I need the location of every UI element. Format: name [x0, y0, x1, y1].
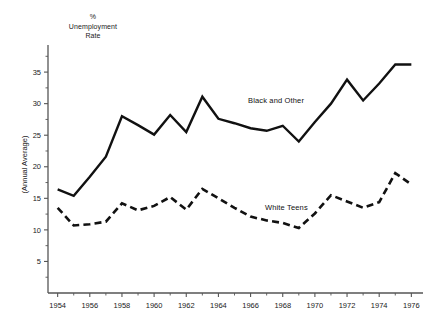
x-tick-label: 1970 [307, 301, 324, 310]
x-tick-label: 1976 [403, 301, 420, 310]
x-tick-label: 1966 [242, 301, 259, 310]
chart-plot-area: 5101520253035195419561958196019621964196… [0, 0, 431, 331]
x-tick-label: 1954 [49, 301, 66, 310]
x-tick-label: 1972 [339, 301, 356, 310]
x-tick-label: 1960 [146, 301, 163, 310]
y-tick-label: 30 [33, 99, 41, 108]
x-tick-label: 1956 [81, 301, 98, 310]
y-tick-label: 25 [33, 131, 41, 140]
x-tick-label: 1962 [178, 301, 195, 310]
y-tick-label: 5 [37, 257, 41, 266]
y-tick-label: 10 [33, 226, 41, 235]
x-tick-label: 1968 [274, 301, 291, 310]
y-tick-label: 15 [33, 194, 41, 203]
unemployment-rate-line-chart: % Unemployment Rate (Annual Average) Bla… [0, 0, 431, 331]
y-tick-label: 20 [33, 162, 41, 171]
y-tick-label: 35 [33, 68, 41, 77]
x-tick-label: 1974 [371, 301, 388, 310]
series-line-white-teens [58, 173, 412, 228]
x-tick-label: 1958 [114, 301, 131, 310]
series-line-black-and-other [58, 65, 412, 196]
x-tick-label: 1964 [210, 301, 227, 310]
